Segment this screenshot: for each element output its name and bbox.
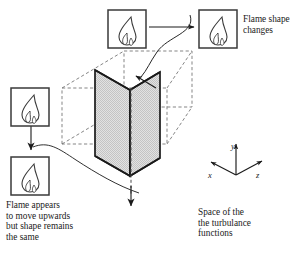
label-flame-appears: Flame appears to move upwards but shape … xyxy=(6,200,73,242)
flame-box-mid-left[interactable] xyxy=(11,88,49,126)
axis-y-label: y xyxy=(231,141,235,151)
axis-z-label: z xyxy=(256,170,259,180)
axis-x-label: x xyxy=(208,170,212,180)
flame-box-bottom-left[interactable] xyxy=(11,157,49,195)
diagram-canvas: Flame shape changes Flame appears to mov… xyxy=(0,0,295,257)
flame-box-top-left[interactable] xyxy=(108,10,146,48)
label-flame-shape-changes: Flame shape changes xyxy=(243,14,290,35)
flame-box-top-right[interactable] xyxy=(199,10,237,48)
label-space-of-turbulance-functions: Space of the the turbulance functions xyxy=(198,207,251,239)
